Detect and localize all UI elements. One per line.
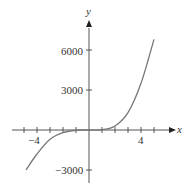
x-tick-label-4: 4 (138, 135, 144, 146)
x-tick-label-neg4: −4 (28, 135, 40, 146)
y-axis-label: y (86, 6, 91, 17)
y-tick-label-neg3000: −3000 (55, 165, 83, 176)
y-tick-label-3000: 3000 (61, 85, 83, 96)
x-axis-arrow-icon (169, 127, 176, 133)
y-tick-label-6000: 6000 (61, 46, 83, 57)
function-curve (26, 39, 154, 170)
x-axis-label: x (177, 124, 182, 135)
chart-canvas (0, 0, 190, 191)
y-axis-arrow-icon (86, 20, 92, 27)
